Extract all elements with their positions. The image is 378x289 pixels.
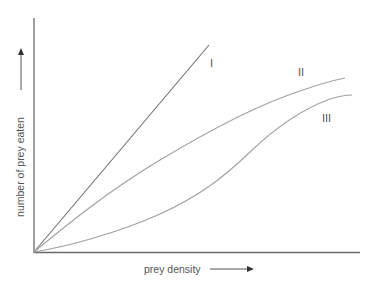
x-axis-label: prey density: [144, 263, 201, 275]
x-axis-arrow-icon: [210, 266, 254, 272]
y-axis-label: number of prey eaten: [14, 117, 26, 217]
curve-label-i: I: [210, 57, 213, 69]
curve-iii: [34, 95, 352, 252]
curve-label-ii: II: [298, 66, 304, 78]
curve-ii: [34, 78, 345, 252]
curve-label-iii: III: [322, 112, 331, 124]
functional-response-diagram: I II III number of prey eaten prey densi…: [0, 0, 378, 289]
curve-i: [34, 45, 209, 252]
y-axis-arrow-icon: [18, 48, 24, 90]
